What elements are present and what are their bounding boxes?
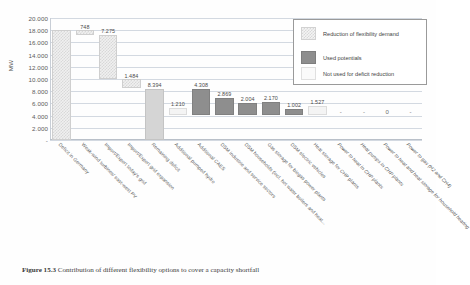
bar-value-label: - [340, 109, 342, 115]
legend-swatch-hatch-icon [301, 27, 316, 40]
bar [192, 89, 211, 115]
x-tick-label: Power to heat and heat storage for house… [383, 142, 470, 230]
bar [215, 98, 234, 116]
bar [262, 102, 281, 115]
bar-value-label: 4.308 [194, 82, 208, 88]
y-tick-label: 10.000 [28, 76, 48, 83]
bar [122, 79, 141, 88]
bar-value-label: 2.869 [218, 91, 232, 97]
legend-label: Used potentials [323, 55, 362, 61]
figure-caption-text: Contribution of different flexibility op… [58, 266, 259, 274]
y-tick-label: 20.000 [28, 15, 48, 22]
legend-item-notused: Not used for deficit reduction [301, 67, 394, 80]
bar [76, 30, 95, 35]
chart-legend: Reduction of flexibility demand Used pot… [293, 19, 427, 85]
legend-swatch-light-icon [301, 67, 316, 80]
bar-value-label: 7.275 [101, 28, 115, 34]
x-tick-label: Additional pumped hydro [173, 142, 216, 185]
figure-number: Figure 15.3 [22, 266, 56, 274]
figure-caption: Figure 15.3 Contribution of different fl… [22, 266, 422, 274]
x-tick-label: DSM households (incl. hot water boilers … [243, 142, 327, 226]
x-tick-label: Heat pumps in CHP plants [359, 142, 404, 187]
bar [238, 103, 257, 115]
bar-value-label: - [363, 109, 365, 115]
y-tick-label: 8.000 [32, 88, 48, 95]
y-tick-label: 4.000 [32, 112, 48, 119]
chart-plot-area: MW 20.00018.00016.00014.00012.00010.0008… [0, 0, 436, 262]
bar-value-label: 1.210 [171, 101, 185, 107]
legend-label: Not used for deficit reduction [323, 71, 394, 77]
y-tick-label: 16.000 [28, 39, 48, 46]
bar-value-label: 1.484 [125, 73, 139, 79]
y-tick-label: 14.000 [28, 51, 48, 58]
bar-value-label: 8.394 [148, 82, 162, 88]
bar-value-label: 2.170 [264, 95, 278, 101]
x-axis-labels: Deficit in GermanyWeak-wind turbines/ ea… [0, 140, 436, 262]
y-tick-label: 2.000 [32, 124, 48, 131]
x-tick-label: Power to gas (H2 and CH4) [406, 142, 453, 189]
y-axis-title: MW [7, 60, 14, 72]
bar [99, 35, 118, 79]
legend-item-used: Used potentials [301, 51, 362, 64]
bar-value-label: 1.002 [287, 102, 301, 108]
bar [145, 89, 164, 140]
y-tick-label: 6.000 [32, 100, 48, 107]
bar [169, 108, 188, 115]
x-tick-label: Power to heat in CHP plants [336, 142, 384, 190]
y-tick-label: 12.000 [28, 63, 48, 70]
legend-item-reduction: Reduction of flexibility demand [301, 27, 399, 40]
bar-value-label: 0 [385, 109, 388, 115]
x-tick-label: Import/Export today's grid [104, 142, 148, 186]
x-tick-label: Import/Export grid expansion [127, 142, 176, 191]
legend-swatch-dark-icon [301, 51, 316, 64]
bar-value-label: - [409, 109, 411, 115]
legend-label: Reduction of flexibility demand [323, 31, 399, 37]
bar [52, 30, 71, 140]
bar-value-label: 2.004 [241, 96, 255, 102]
bar [285, 109, 304, 115]
y-tick-label: 18.000 [28, 27, 48, 34]
bar-value-label: 748 [80, 24, 89, 30]
bar [308, 106, 327, 115]
bar-value-label: 1.527 [311, 99, 325, 105]
x-tick-label: Heat storage for CHP plants [313, 142, 361, 190]
